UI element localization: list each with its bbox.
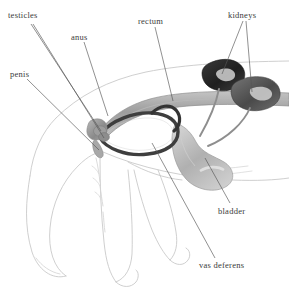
label-vas-deferens: vas deferens [199, 261, 244, 270]
label-bladder: bladder [218, 207, 245, 216]
label-penis: penis [10, 70, 29, 79]
label-kidneys: kidneys [228, 11, 256, 20]
leader-line-penis [27, 79, 99, 150]
label-rectum: rectum [138, 17, 163, 26]
label-testicles: testicles [8, 11, 38, 20]
leader-lines [27, 21, 252, 258]
leader-line-testicles-2 [33, 24, 104, 138]
anatomy-illustration [0, 0, 289, 292]
leader-line-rectum [155, 27, 173, 101]
leader-line-anus [84, 42, 108, 116]
kidney-right-organ [231, 77, 280, 111]
label-anus: anus [71, 33, 88, 42]
